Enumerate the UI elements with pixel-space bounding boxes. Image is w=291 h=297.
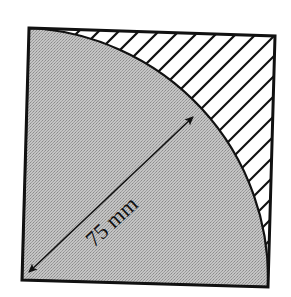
- quarter-circle-diagram: 75 mm: [0, 0, 291, 297]
